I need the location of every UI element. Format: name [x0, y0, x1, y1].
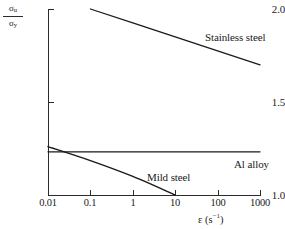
- series-label-stainless-steel: Stainless steel: [205, 31, 266, 43]
- series-label-al-alloy: Al alloy: [234, 158, 269, 170]
- series-label-mild-steel: Mild steel: [147, 171, 190, 183]
- chart-canvas: σu σy 2.0 1.5 1.0 0.01 0.1 1 10 100 1000…: [0, 0, 285, 229]
